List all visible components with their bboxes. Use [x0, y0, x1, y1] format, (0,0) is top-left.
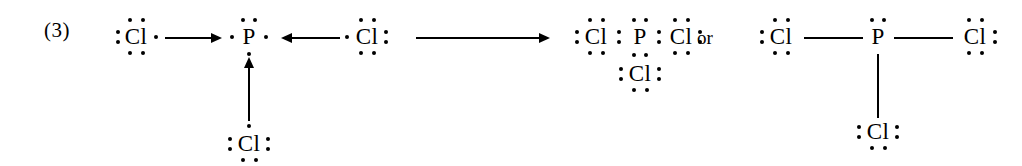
electron-dot — [588, 18, 592, 22]
electron-dot — [686, 18, 690, 22]
atom-symbol-cl: Cl — [629, 62, 651, 85]
electron-dot — [967, 51, 971, 55]
electron-dot — [632, 18, 636, 22]
electron-dot — [128, 51, 132, 55]
electron-dot — [657, 40, 661, 44]
electron-dot — [588, 51, 592, 55]
electron-dot — [359, 51, 363, 55]
atom-symbol-cl: Cl — [125, 25, 147, 48]
electron-dot — [657, 77, 661, 81]
atom-symbol-cl: Cl — [356, 25, 378, 48]
electron-dot — [154, 35, 158, 39]
electron-dot — [116, 40, 120, 44]
electron-dot — [673, 18, 677, 22]
electron-dot — [384, 30, 388, 34]
connector-or: or — [697, 28, 713, 47]
electron-dot — [773, 51, 777, 55]
electron-dot — [870, 18, 874, 22]
electron-dot — [372, 51, 376, 55]
electron-dot — [617, 30, 621, 34]
electron-dot — [895, 135, 899, 139]
electron-dot — [128, 18, 132, 22]
atom-symbol-cl: Cl — [238, 132, 260, 155]
electron-dot — [372, 18, 376, 22]
electron-dot — [870, 146, 874, 150]
electron-dot — [253, 18, 257, 22]
electron-dot — [980, 18, 984, 22]
electron-dot — [760, 40, 764, 44]
atom-symbol-cl: Cl — [867, 120, 889, 143]
bond-p-to-cl-bottom — [877, 54, 879, 118]
atom-symbol-p: P — [871, 25, 884, 48]
electron-dot — [266, 137, 270, 141]
electron-dot — [967, 18, 971, 22]
electron-dot — [345, 35, 349, 39]
electron-dot — [980, 51, 984, 55]
electron-dot — [657, 67, 661, 71]
electron-dot — [786, 18, 790, 22]
electron-dot — [632, 53, 636, 57]
bond-cl-left-to-p — [804, 37, 863, 39]
electron-dot — [241, 18, 245, 22]
electron-dot — [619, 77, 623, 81]
electron-dot — [882, 18, 886, 22]
electron-dot — [993, 40, 997, 44]
atom-symbol-cl: Cl — [770, 25, 792, 48]
electron-dot — [857, 135, 861, 139]
electron-dot — [883, 146, 887, 150]
atom-symbol-p: P — [242, 25, 255, 48]
electron-dot — [657, 30, 661, 34]
atom-symbol-cl: Cl — [670, 25, 692, 48]
electron-dot — [575, 40, 579, 44]
lewis-structure-diagram: (3) Cl P Cl — [0, 0, 1022, 166]
electron-dot — [786, 51, 790, 55]
electron-dot — [247, 124, 251, 128]
electron-dot — [601, 51, 605, 55]
electron-dot — [645, 88, 649, 92]
electron-dot — [228, 137, 232, 141]
electron-dot — [601, 18, 605, 22]
electron-dot — [254, 158, 258, 162]
electron-dot — [895, 125, 899, 129]
electron-dot — [686, 51, 690, 55]
electron-dot — [575, 30, 579, 34]
electron-dot — [228, 147, 232, 151]
electron-dot — [773, 18, 777, 22]
electron-dot — [264, 35, 268, 39]
electron-dot — [266, 147, 270, 151]
electron-dot — [857, 125, 861, 129]
electron-dot — [632, 88, 636, 92]
electron-dot — [673, 51, 677, 55]
atom-symbol-p: P — [633, 25, 646, 48]
electron-dot — [619, 67, 623, 71]
electron-dot — [384, 40, 388, 44]
electron-dot — [644, 53, 648, 57]
electron-dot — [359, 18, 363, 22]
electron-dot — [141, 18, 145, 22]
electron-dot — [116, 30, 120, 34]
atom-symbol-cl: Cl — [585, 25, 607, 48]
item-number: (3) — [44, 20, 70, 41]
electron-dot — [230, 35, 234, 39]
electron-dot — [644, 18, 648, 22]
electron-dot — [247, 52, 251, 56]
atom-symbol-cl: Cl — [964, 25, 986, 48]
electron-dot — [993, 30, 997, 34]
electron-dot — [617, 40, 621, 44]
electron-dot — [760, 30, 764, 34]
bond-p-to-cl-right — [894, 37, 953, 39]
electron-dot — [241, 158, 245, 162]
electron-dot — [141, 51, 145, 55]
